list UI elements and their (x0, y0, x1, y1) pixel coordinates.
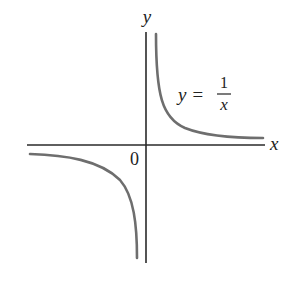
curve-positive-branch (156, 34, 263, 138)
origin-label: 0 (130, 149, 139, 169)
equation-denominator: x (219, 95, 228, 114)
hyperbola-graph: y x 0 y = 1 x (0, 0, 289, 281)
equation-label: y = 1 x (176, 74, 231, 114)
equation-lhs: y = (176, 84, 204, 105)
x-axis-label: x (269, 133, 279, 154)
curve-negative-branch (30, 154, 137, 258)
equation-numerator: 1 (220, 74, 228, 91)
y-axis-label: y (141, 6, 152, 27)
